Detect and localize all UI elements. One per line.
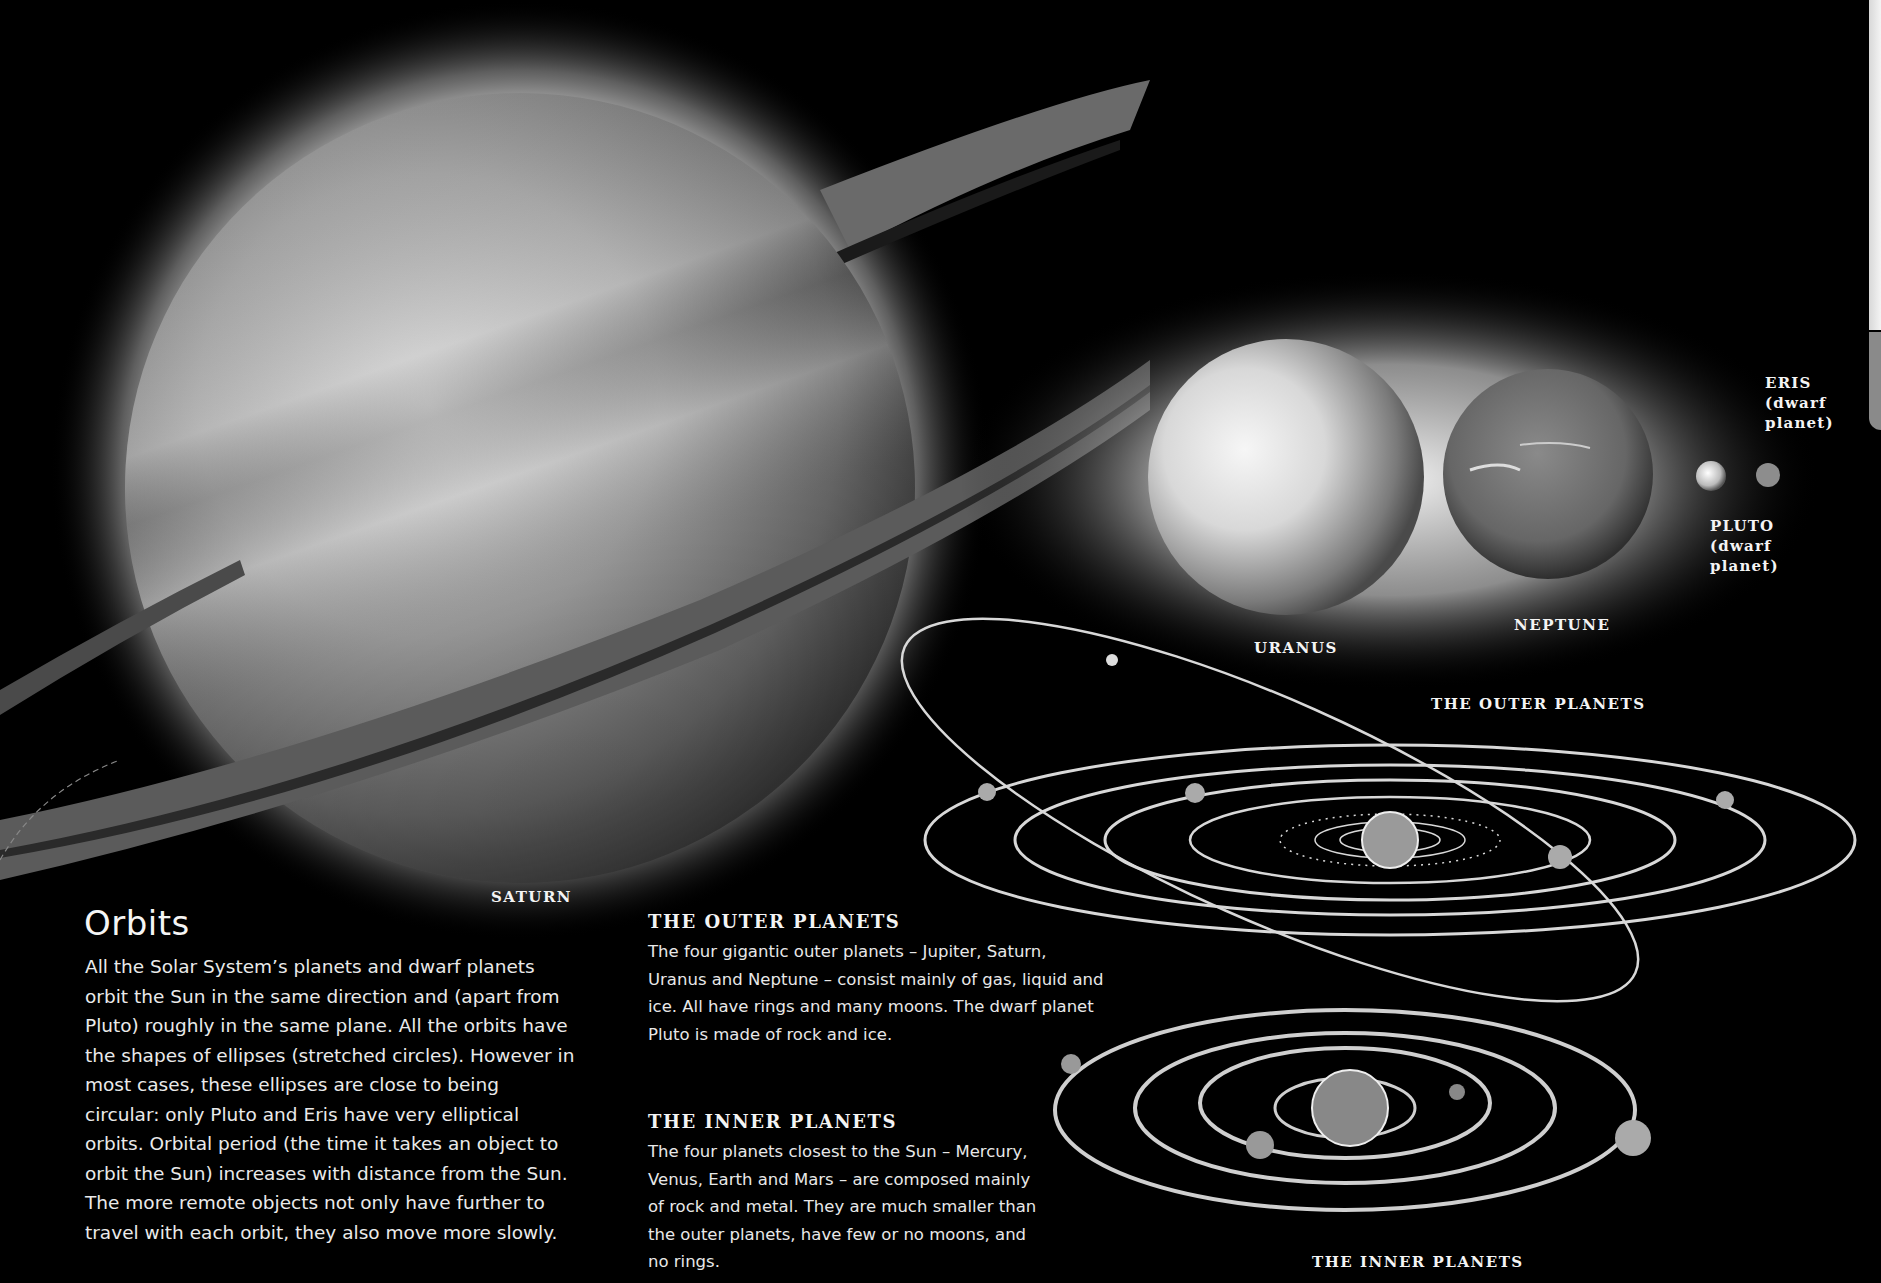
outer-planets-heading: THE OUTER PLANETS bbox=[648, 911, 900, 932]
inner-planets-heading: THE INNER PLANETS bbox=[648, 1111, 897, 1132]
neptune-planet bbox=[1443, 369, 1653, 579]
uranus-planet bbox=[1148, 339, 1424, 615]
page-title: Orbits bbox=[84, 903, 190, 943]
outer-planets-text: The four gigantic outer planets – Jupite… bbox=[648, 938, 1108, 1048]
inner-planets-text: The four planets closest to the Sun – Me… bbox=[648, 1138, 1043, 1276]
inner-orbit-diagram bbox=[1055, 1010, 1651, 1210]
neptune-label: NEPTUNE bbox=[1514, 616, 1610, 634]
page-edge-tab bbox=[1869, 332, 1881, 430]
saturn-label: SATURN bbox=[491, 888, 572, 906]
page-edge-strip bbox=[1869, 0, 1881, 330]
article-body: All the Solar System’s planets and dwarf… bbox=[85, 952, 575, 1247]
uranus-label: URANUS bbox=[1254, 639, 1338, 657]
pluto-planet bbox=[1696, 461, 1726, 491]
eris-label: ERIS (dwarf planet) bbox=[1765, 373, 1834, 433]
inner-planets-diagram-label: THE INNER PLANETS bbox=[1312, 1253, 1524, 1271]
outer-planets-illustration bbox=[960, 270, 1820, 690]
pluto-label: PLUTO (dwarf planet) bbox=[1710, 516, 1779, 576]
eris-planet bbox=[1756, 463, 1780, 487]
outer-planets-diagram-label: THE OUTER PLANETS bbox=[1431, 695, 1646, 713]
